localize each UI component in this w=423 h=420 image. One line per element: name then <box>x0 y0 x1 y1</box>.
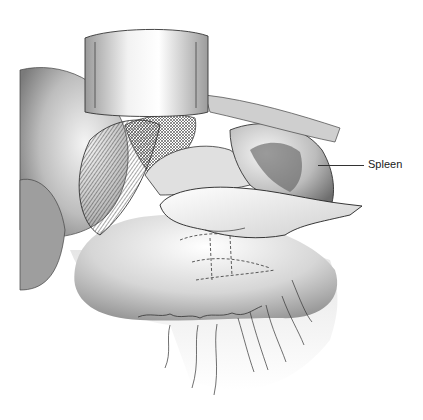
stomach-shape <box>75 215 338 321</box>
spleen-label: Spleen <box>368 158 402 170</box>
spleen-leader-line <box>318 165 364 166</box>
retractor-blade <box>85 29 208 116</box>
figure-canvas: Spleen <box>0 0 423 420</box>
surgical-illustration <box>0 0 423 420</box>
